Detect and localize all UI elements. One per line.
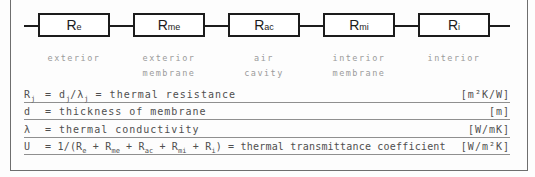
legend-row-conductivity: λ= thermal conductivity[W/mK] [24,120,510,138]
legend-definition: = thermal conductivity [45,124,462,135]
resistor-label-line: membrane [297,66,421,81]
legend-unit: [m²K/W] [461,89,510,100]
subscript: j [66,95,70,103]
resistor-box-rac: Rac [228,13,300,37]
circuit-nodes: ReexteriorRmeexteriormembraneRacaircavit… [38,13,490,37]
legend-definition: = dj/λj = thermal resistance [45,89,455,100]
subscript: e [82,147,86,155]
subscript: i [211,147,215,155]
legend-symbol: d [24,106,45,117]
resistor-box-rme: Rme [133,13,205,37]
figure-thermal-resistance: ReexteriorRmeexteriormembraneRacaircavit… [0,0,535,177]
circuit-node-ri: Riinterior [418,13,490,37]
resistor-label-ri: interior [392,51,516,66]
legend-unit: [W/mK] [468,124,510,135]
legend-unit: [W/m²K] [461,141,510,152]
legend-definition: = 1/(Re + Rme + Rac + Rmi + Ri) = therma… [45,141,455,152]
legend-unit: [m] [489,106,510,117]
figure-border-left [10,0,11,171]
circuit-node-rmi: Rmiinteriormembrane [323,13,395,37]
subscript: mi [178,147,186,155]
legend-symbol: U [24,141,45,152]
circuit-node-rme: Rmeexteriormembrane [133,13,205,37]
circuit-node-re: Reexterior [38,13,110,37]
subscript: me [111,147,119,155]
legend-row-thermal-resistance: Rj= dj/λj = thermal resistance[m²K/W] [24,85,510,103]
subscript: j [31,95,35,103]
legend-table: Rj= dj/λj = thermal resistance[m²K/W]d= … [24,85,510,155]
legend-symbol: λ [24,124,45,135]
legend-definition: = thickness of membrane [45,106,483,117]
subscript: j [84,95,88,103]
subscript: ac [145,147,153,155]
figure-border-bottom [10,170,528,171]
resistor-box-re: Re [38,13,110,37]
figure-border-right [527,0,528,171]
resistor-box-ri: Ri [418,13,490,37]
legend-symbol: Rj [24,89,45,100]
legend-row-thickness: d= thickness of membrane[m] [24,103,510,121]
resistor-label-line: interior [392,51,516,66]
circuit-node-rac: Racaircavity [228,13,300,37]
resistor-box-rmi: Rmi [323,13,395,37]
legend-row-transmittance: U= 1/(Re + Rme + Rac + Rmi + Ri) = therm… [24,138,510,156]
thermal-resistance-circuit: ReexteriorRmeexteriormembraneRacaircavit… [24,0,510,84]
